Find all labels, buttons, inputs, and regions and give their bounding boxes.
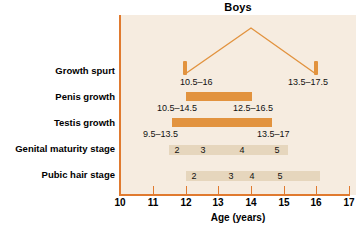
- x-tick-11: [153, 186, 154, 195]
- row-label-growth-spurt: Growth spurt: [0, 65, 115, 76]
- penis-growth-completion-range: 12.5–16.5: [233, 103, 273, 113]
- y-axis-line: [119, 15, 121, 196]
- x-tick-label-17: 17: [337, 197, 356, 208]
- genital-stage-5-label: 5: [270, 145, 284, 155]
- x-tick-17: [349, 186, 350, 195]
- pubic-hair-stage-5-label: 5: [273, 171, 287, 181]
- genital-stage-2-label: 2: [170, 145, 184, 155]
- growth-spurt-onset-range: 10.5–16: [180, 77, 213, 87]
- x-tick-16: [316, 186, 317, 195]
- pubic-hair-stage-2-label: 2: [187, 171, 201, 181]
- x-tick-label-15: 15: [272, 197, 296, 208]
- x-tick-label-14: 14: [239, 197, 263, 208]
- x-tick-12: [186, 186, 187, 195]
- genital-stage-3-label: 3: [196, 145, 210, 155]
- row-label-genital-maturity-stage: Genital maturity stage: [0, 143, 115, 154]
- testis-growth-completion-range: 13.5–17: [257, 129, 290, 139]
- pubic-hair-stage-3-label: 3: [224, 171, 238, 181]
- pubic-hair-stage-4-label: 4: [245, 171, 259, 181]
- growth-spurt-onset-marker: [183, 61, 187, 75]
- genital-stage-4-label: 4: [235, 145, 249, 155]
- penis-growth-onset-range: 10.5–14.5: [157, 103, 197, 113]
- x-tick-15: [284, 186, 285, 195]
- x-tick-14: [251, 186, 252, 195]
- x-tick-10: [120, 186, 121, 195]
- penis-growth-bar: [186, 92, 252, 101]
- row-label-testis-growth: Testis growth: [0, 117, 115, 128]
- growth-spurt-completion-marker: [314, 61, 318, 75]
- x-axis-title: Age (years): [120, 212, 356, 223]
- testis-growth-onset-range: 9.5–13.5: [143, 129, 178, 139]
- x-tick-label-16: 16: [304, 197, 328, 208]
- x-tick-13: [218, 186, 219, 195]
- chart-title: Boys: [120, 1, 356, 13]
- row-label-pubic-hair-stage: Pubic hair stage: [0, 169, 115, 180]
- x-tick-label-12: 12: [174, 197, 198, 208]
- x-tick-label-11: 11: [141, 197, 165, 208]
- x-tick-label-10: 10: [108, 197, 132, 208]
- growth-spurt-completion-range: 13.5–17.5: [288, 77, 328, 87]
- x-tick-label-13: 13: [206, 197, 230, 208]
- testis-growth-bar: [172, 118, 272, 127]
- row-label-penis-growth: Penis growth: [0, 91, 115, 102]
- puberty-timeline-figure: Boys 10 11 12 13 14 15 16 17 Age (years)…: [0, 0, 356, 237]
